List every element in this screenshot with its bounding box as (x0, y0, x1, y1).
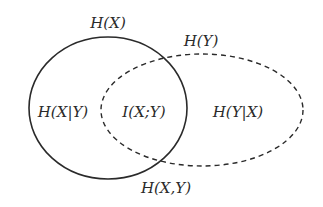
label-joint-entropy: H(X,Y) (140, 179, 191, 197)
label-h-y: H(Y) (183, 32, 219, 50)
label-h-y-given-x: H(Y|X) (212, 103, 264, 121)
label-h-x-given-y: H(X|Y) (37, 103, 89, 121)
entropy-venn-diagram: H(X) H(Y) H(X|Y) I(X;Y) H(Y|X) H(X,Y) (0, 0, 323, 207)
label-h-x: H(X) (89, 14, 126, 32)
label-mutual-information: I(X;Y) (121, 103, 165, 121)
